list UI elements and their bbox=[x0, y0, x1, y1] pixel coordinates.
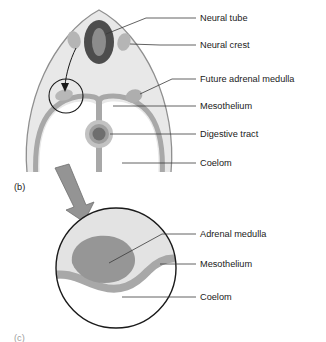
magnifier-arrow-shape bbox=[55, 164, 94, 222]
digestive-tract bbox=[85, 120, 113, 148]
digestive-tract-lumen bbox=[93, 128, 106, 141]
magnifier-arrow bbox=[55, 164, 94, 222]
label-future-adrenal-medulla: Future adrenal medulla bbox=[200, 74, 295, 84]
embryo-cross-section bbox=[26, 10, 172, 182]
label-inset-adrenal-medulla: Adrenal medulla bbox=[200, 229, 267, 239]
label-inset-mesothelium: Mesothelium bbox=[200, 259, 252, 269]
figure-container: Neural tube Neural crest Future adrenal … bbox=[0, 0, 326, 342]
panel-label-b: (b) bbox=[14, 182, 25, 192]
inset-magnified-view bbox=[50, 205, 182, 328]
label-digestive-tract: Digestive tract bbox=[200, 129, 259, 139]
label-coelom: Coelom bbox=[200, 158, 232, 168]
panel-label-c: (c) bbox=[14, 333, 25, 342]
label-neural-crest: Neural crest bbox=[200, 40, 250, 50]
embryo-diagram-svg: Neural tube Neural crest Future adrenal … bbox=[0, 0, 326, 342]
neural-tube bbox=[84, 20, 114, 64]
label-neural-tube: Neural tube bbox=[200, 13, 248, 23]
label-inset-coelom: Coelom bbox=[200, 292, 232, 302]
leader-neural-crest bbox=[130, 44, 196, 45]
label-mesothelium: Mesothelium bbox=[200, 101, 252, 111]
neural-tube-lumen bbox=[92, 28, 106, 56]
